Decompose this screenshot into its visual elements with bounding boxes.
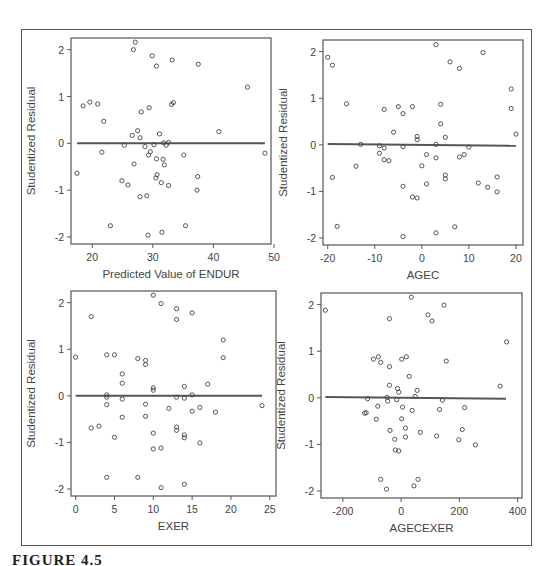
x-tick-label: 30 bbox=[147, 251, 159, 263]
data-point bbox=[403, 426, 407, 430]
data-point bbox=[120, 372, 124, 376]
data-point bbox=[151, 447, 155, 451]
x-tick-label: 400 bbox=[509, 505, 527, 517]
data-point bbox=[75, 171, 79, 175]
data-point bbox=[393, 437, 397, 441]
data-point bbox=[326, 55, 330, 59]
data-point bbox=[198, 405, 202, 409]
data-point bbox=[147, 106, 151, 110]
data-point bbox=[105, 353, 109, 357]
data-point bbox=[498, 384, 502, 388]
data-point bbox=[457, 66, 461, 70]
residual-plots: -2-101220304050Predicted Value of ENDURS… bbox=[0, 0, 552, 566]
data-point bbox=[143, 145, 147, 149]
y-tick-label: 0 bbox=[58, 137, 64, 149]
y-tick-label: -2 bbox=[55, 231, 64, 243]
data-point bbox=[120, 415, 124, 419]
data-point bbox=[344, 102, 348, 106]
x-tick-label: 200 bbox=[451, 505, 469, 517]
data-point bbox=[157, 132, 161, 136]
data-point bbox=[159, 301, 163, 305]
data-point bbox=[105, 475, 109, 479]
data-point bbox=[481, 50, 485, 54]
data-point bbox=[377, 151, 381, 155]
y-tick-label: 1 bbox=[308, 345, 314, 357]
data-point bbox=[382, 146, 386, 150]
data-point bbox=[434, 156, 438, 160]
y-axis-title: Studentized Residual bbox=[275, 341, 287, 450]
data-point bbox=[175, 317, 179, 321]
data-point bbox=[453, 225, 457, 229]
data-point bbox=[190, 311, 194, 315]
data-point bbox=[151, 293, 155, 297]
data-point bbox=[404, 355, 408, 359]
data-point bbox=[198, 441, 202, 445]
data-point bbox=[206, 382, 210, 386]
data-point bbox=[138, 136, 142, 140]
x-axis-title: AGECEXER bbox=[390, 522, 454, 534]
data-point bbox=[183, 224, 187, 228]
x-tick-label: 20 bbox=[510, 252, 522, 264]
data-point bbox=[463, 406, 467, 410]
data-point bbox=[151, 431, 155, 435]
data-point bbox=[442, 303, 446, 307]
data-point bbox=[221, 338, 225, 342]
data-point bbox=[150, 54, 154, 58]
data-point bbox=[175, 307, 179, 311]
data-point bbox=[434, 231, 438, 235]
data-point bbox=[196, 174, 200, 178]
data-point bbox=[105, 403, 109, 407]
data-point bbox=[145, 194, 149, 198]
data-point bbox=[154, 64, 158, 68]
data-point bbox=[323, 308, 327, 312]
data-point bbox=[330, 63, 334, 67]
data-point bbox=[444, 359, 448, 363]
data-point bbox=[435, 434, 439, 438]
data-point bbox=[143, 363, 147, 367]
data-point bbox=[448, 60, 452, 64]
data-point bbox=[81, 104, 85, 108]
data-point bbox=[387, 383, 391, 387]
data-point bbox=[102, 119, 106, 123]
x-tick-label: 20 bbox=[225, 503, 237, 515]
data-point bbox=[146, 233, 150, 237]
x-tick-label: 25 bbox=[264, 503, 276, 515]
data-point bbox=[190, 409, 194, 413]
data-point bbox=[120, 179, 124, 183]
data-point bbox=[434, 43, 438, 47]
plot-area bbox=[71, 38, 271, 244]
data-point bbox=[245, 85, 249, 89]
plot-agecexer: -2-1012-2000200400AGECEXERStudentized Re… bbox=[275, 293, 527, 534]
data-point bbox=[112, 435, 116, 439]
data-point bbox=[415, 196, 419, 200]
data-point bbox=[437, 407, 441, 411]
data-point bbox=[382, 107, 386, 111]
data-point bbox=[430, 319, 434, 323]
data-point bbox=[424, 182, 428, 186]
data-point bbox=[439, 102, 443, 106]
data-point bbox=[376, 404, 380, 408]
data-point bbox=[409, 295, 413, 299]
y-tick-label: -2 bbox=[307, 232, 316, 244]
data-point bbox=[74, 355, 78, 359]
data-point bbox=[371, 357, 375, 361]
data-point bbox=[410, 408, 414, 412]
data-point bbox=[473, 443, 477, 447]
data-point bbox=[379, 477, 383, 481]
x-tick-label: 50 bbox=[268, 251, 280, 263]
data-point bbox=[136, 475, 140, 479]
x-tick-label: 5 bbox=[112, 503, 118, 515]
data-point bbox=[330, 175, 334, 179]
plot-endur-predicted: -2-101220304050Predicted Value of ENDURS… bbox=[25, 38, 280, 280]
data-point bbox=[335, 224, 339, 228]
y-tick-label: -1 bbox=[307, 185, 316, 197]
data-point bbox=[143, 414, 147, 418]
y-tick-label: -1 bbox=[55, 184, 64, 196]
y-tick-label: 0 bbox=[310, 139, 316, 151]
y-tick-label: 1 bbox=[58, 91, 64, 103]
data-point bbox=[416, 477, 420, 481]
data-point bbox=[415, 388, 419, 392]
data-point bbox=[401, 112, 405, 116]
data-point bbox=[400, 357, 404, 361]
data-point bbox=[476, 181, 480, 185]
